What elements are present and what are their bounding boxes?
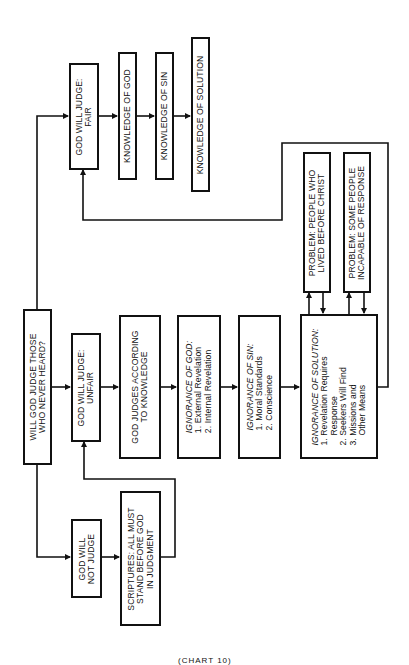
judge-unfair-box: GOD WILL JUDGE: UNFAIR [71,333,101,442]
judge-fair-line-2: FAIR [84,78,93,155]
scriptures-line-3: IN JUDGMENT [145,507,154,610]
ignorance-of-sin-text: IGNORANCE OF SIN: 1. Moral Standards 2. … [245,343,273,430]
scriptures-text: SCRIPTURES: ALL MUST STAND BEFORE GOD IN… [126,507,154,610]
ignorance-of-god-text: IGNORANCE OF GOD: 1. External Revelation… [185,341,213,433]
ignorance-of-god-item-2: 2. Internal Revelation [204,341,213,433]
knowledge-of-sin-label: KNOWLEDGE OF SIN [160,72,169,161]
problem-before-christ-box: PROBLEM: PEOPLE WHO LIVED BEFORE CHRIST [303,152,331,293]
judge-fair-box: GOD WILL JUDGE: FAIR [69,63,99,170]
judge-unfair-text: GOD WILL JUDGE: UNFAIR [77,349,96,426]
root-question-text: WILL GOD JUDGE THOSE WHO NEVER HEARD? [28,333,47,440]
ignorance-of-god-box: IGNORANCE OF GOD: 1. External Revelation… [177,315,221,459]
scriptures-line-2: STAND BEFORE GOD [136,507,145,610]
not-judge-line-2: NOT JUDGE [87,533,96,583]
judges-according-box: GOD JUDGES ACCORDING TO KNOWLEDGE [119,315,161,459]
problem-before-christ-text: PROBLEM: PEOPLE WHO LIVED BEFORE CHRIST [308,169,327,275]
knowledge-of-solution-label: KNOWLEDGE OF SOLUTION [196,55,205,174]
not-judge-text: GOD WILL NOT JUDGE [77,533,96,583]
root-question-box: WILL GOD JUDGE THOSE WHO NEVER HEARD? [23,309,52,465]
chart-caption: (CHART 10) [178,656,232,665]
ignorance-of-sin-box: IGNORANCE OF SIN: 1. Moral Standards 2. … [238,315,281,459]
ignorance-of-solution-box: IGNORANCE OF SOLUTION: 1. Revelation Req… [300,314,378,459]
judges-according-line-2: TO KNOWLEDGE [140,330,149,443]
arrow-root-to-fair [37,116,68,310]
knowledge-of-god-box: KNOWLEDGE OF GOD [118,52,137,180]
problem-before-christ-line-2: LIVED BEFORE CHRIST [317,169,326,275]
knowledge-of-solution-text: KNOWLEDGE OF SOLUTION [196,55,205,174]
knowledge-of-solution-box: KNOWLEDGE OF SOLUTION [191,37,210,192]
problem-incapable-text: PROBLEM: SOME PEOPLE INCAPABLE OF RESPON… [348,165,367,279]
not-judge-box: GOD WILL NOT JUDGE [71,519,102,598]
root-line-2: WHO NEVER HEARD? [38,333,47,440]
ignorance-of-sin-item-2: 2. Conscience [264,343,273,430]
knowledge-of-sin-text: KNOWLEDGE OF SIN [160,72,169,161]
judge-unfair-line-2: UNFAIR [86,349,95,426]
knowledge-of-sin-box: KNOWLEDGE OF SIN [155,52,174,180]
ignorance-of-solution-item-3-cont: Other Means [358,328,367,445]
problem-incapable-line-2: INCAPABLE OF RESPONSE [357,165,366,279]
ignorance-of-solution-text: IGNORANCE OF SOLUTION: 1. Revelation Req… [311,328,367,445]
problem-incapable-box: PROBLEM: SOME PEOPLE INCAPABLE OF RESPON… [343,152,371,293]
arrow-root-to-not-judge [37,464,70,557]
judge-fair-text: GOD WILL JUDGE: FAIR [75,78,94,155]
scriptures-box: SCRIPTURES: ALL MUST STAND BEFORE GOD IN… [120,491,161,626]
knowledge-of-god-text: KNOWLEDGE OF GOD [123,69,132,163]
judges-according-text: GOD JUDGES ACCORDING TO KNOWLEDGE [131,330,150,443]
ignorance-of-sin-item-1: 1. Moral Standards [255,343,264,430]
knowledge-of-god-label: KNOWLEDGE OF GOD [123,69,132,163]
